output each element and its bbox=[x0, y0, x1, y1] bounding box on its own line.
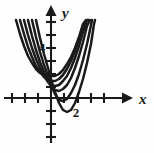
y-axis-arrow-icon bbox=[46, 5, 57, 16]
graph-canvas: y x 4 2 bbox=[0, 0, 154, 153]
x-axis-arrow-icon bbox=[122, 93, 133, 104]
x-axis-label: x bbox=[138, 91, 147, 107]
parabola-family-figure: y x 4 2 bbox=[0, 0, 154, 153]
x-tick-label-2: 2 bbox=[73, 105, 80, 120]
y-tick-label-4: 4 bbox=[39, 40, 46, 55]
y-axis-label: y bbox=[60, 5, 69, 21]
